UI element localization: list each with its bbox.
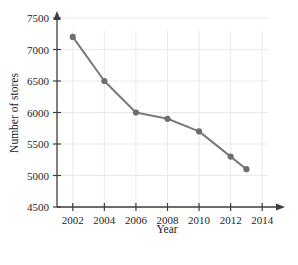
y-axis-title: Number of stores xyxy=(8,73,20,153)
x-tick-label: 2012 xyxy=(220,214,242,226)
x-tick-label: 2004 xyxy=(93,214,116,226)
y-tick-label: 6500 xyxy=(27,75,50,87)
x-tick-label: 2002 xyxy=(62,214,84,226)
data-point-marker xyxy=(228,154,234,160)
y-tick-label: 4500 xyxy=(27,201,50,213)
data-point-marker xyxy=(196,128,202,134)
data-point-marker xyxy=(70,34,76,40)
data-point-marker xyxy=(243,166,249,172)
data-point-marker xyxy=(164,116,170,122)
y-tick-label: 7500 xyxy=(27,12,50,24)
x-tick-label: 2014 xyxy=(251,214,274,226)
y-tick-label: 7000 xyxy=(27,44,50,56)
data-point-marker xyxy=(133,109,139,115)
y-tick-label: 5500 xyxy=(27,138,50,150)
y-tick-label: 6000 xyxy=(27,107,50,119)
line-chart-figure: 4500500055006000650070007500 20022004200… xyxy=(0,0,298,265)
x-tick-label: 2010 xyxy=(188,214,211,226)
x-tick-label: 2006 xyxy=(125,214,148,226)
x-axis-title: Year xyxy=(156,223,177,235)
data-point-marker xyxy=(101,78,107,84)
chart-canvas: 4500500055006000650070007500 20022004200… xyxy=(0,0,298,265)
y-tick-label: 5000 xyxy=(27,170,50,182)
